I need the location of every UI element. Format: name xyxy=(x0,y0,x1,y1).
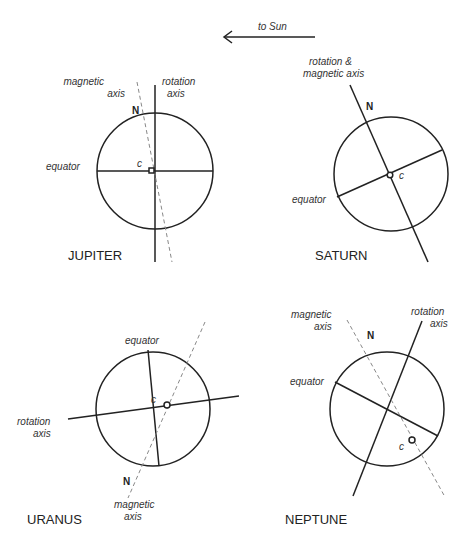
jupiter-north-label: N xyxy=(132,105,139,116)
saturn-axis-label-line1: rotation & xyxy=(309,56,352,67)
jupiter-title: JUPITER xyxy=(68,248,122,263)
saturn-center-label: c xyxy=(399,170,404,181)
uranus-rotation-label-line2: axis xyxy=(33,428,51,439)
uranus-diagram: equator rotation axis magnetic axis N c … xyxy=(17,322,239,527)
uranus-title: URANUS xyxy=(27,512,82,527)
saturn-north-label: N xyxy=(366,101,373,112)
neptune-center-label: c xyxy=(399,441,404,452)
neptune-north-label: N xyxy=(367,330,374,341)
jupiter-center-label: c xyxy=(137,158,142,169)
saturn-diagram: rotation & magnetic axis equator N c SAT… xyxy=(292,56,448,263)
saturn-dipole-center-marker xyxy=(387,172,393,178)
saturn-title: SATURN xyxy=(315,248,367,263)
neptune-dipole-center-marker xyxy=(409,437,415,443)
neptune-rotation-axis xyxy=(353,321,422,496)
neptune-diagram: magnetic axis rotation axis equator N c … xyxy=(285,306,448,527)
saturn-equator-label: equator xyxy=(292,194,327,205)
jupiter-diagram: magnetic axis rotation axis equator N c … xyxy=(46,76,213,263)
neptune-magnetic-label-line1: magnetic xyxy=(291,309,332,320)
jupiter-magnetic-label-line2: axis xyxy=(107,88,125,99)
uranus-north-label: N xyxy=(123,476,130,487)
neptune-equator-label: equator xyxy=(290,376,325,387)
uranus-rotation-label-line1: rotation xyxy=(17,416,51,427)
uranus-magnetic-label-line1: magnetic xyxy=(114,499,155,510)
jupiter-magnetic-label-line1: magnetic xyxy=(63,76,104,87)
planetary-magnetic-field-diagram: to Sun magnetic axis rotation axis equat… xyxy=(0,0,465,541)
sun-label: to Sun xyxy=(258,21,287,32)
neptune-magnetic-label-line2: axis xyxy=(314,321,332,332)
jupiter-equator-label: equator xyxy=(46,161,81,172)
neptune-rotation-label-line2: axis xyxy=(430,318,448,329)
jupiter-dipole-center-marker xyxy=(149,168,154,173)
uranus-dipole-center-marker xyxy=(164,402,170,408)
uranus-magnetic-label-line2: axis xyxy=(124,511,142,522)
jupiter-rotation-label-line2: axis xyxy=(167,88,185,99)
neptune-rotation-label-line1: rotation xyxy=(411,306,445,317)
saturn-axis-label-line2: magnetic axis xyxy=(303,68,364,79)
sun-direction-arrow: to Sun xyxy=(224,21,315,43)
neptune-magnetic-axis xyxy=(347,320,445,497)
neptune-title: NEPTUNE xyxy=(285,512,347,527)
jupiter-rotation-label-line1: rotation xyxy=(162,76,196,87)
uranus-center-label: c xyxy=(151,394,156,405)
uranus-equator-label: equator xyxy=(125,335,160,346)
